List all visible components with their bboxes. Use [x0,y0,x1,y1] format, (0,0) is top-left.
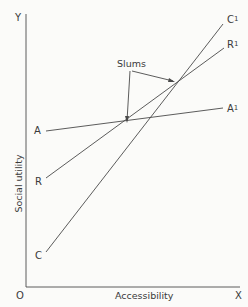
line-r-end-letter: R [227,39,234,50]
slums-arrow-left [127,71,130,121]
line-a-end-sup: 1 [234,104,238,112]
origin-label: O [16,291,24,301]
line-a-end-letter: A [227,103,234,114]
y-axis-title: Social utility [13,154,24,214]
line-c-start-label: C [35,251,42,261]
line-c-end-letter: C [227,14,234,25]
line-a-start-label: A [34,126,41,136]
x-axis-end-label: X [235,291,242,301]
line-r-end-sup: 1 [234,40,238,48]
line-c-end-sup: 1 [234,15,238,23]
slums-annotation: Slums [117,59,146,69]
y-axis-end-label: Y [15,13,21,23]
arrowhead-right-icon [168,78,175,82]
line-a-end-label: A1 [227,104,238,114]
line-a [46,108,223,131]
x-axis-title: Accessibility [115,291,173,301]
line-r-end-label: R1 [227,40,238,50]
slums-arrow-right [132,71,173,81]
line-r-start-label: R [35,177,42,187]
line-c-end-label: C1 [227,15,238,25]
